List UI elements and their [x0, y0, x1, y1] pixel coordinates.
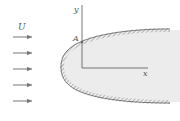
diagram-canvas: U y A x — [0, 0, 180, 121]
label-stagnation-point-a: A — [72, 34, 79, 43]
label-y-axis: y — [73, 5, 79, 14]
stagnation-point-marker — [81, 41, 84, 44]
flow-arrows — [13, 37, 32, 101]
label-x-axis: x — [143, 69, 148, 78]
label-free-stream-u: U — [18, 22, 26, 32]
